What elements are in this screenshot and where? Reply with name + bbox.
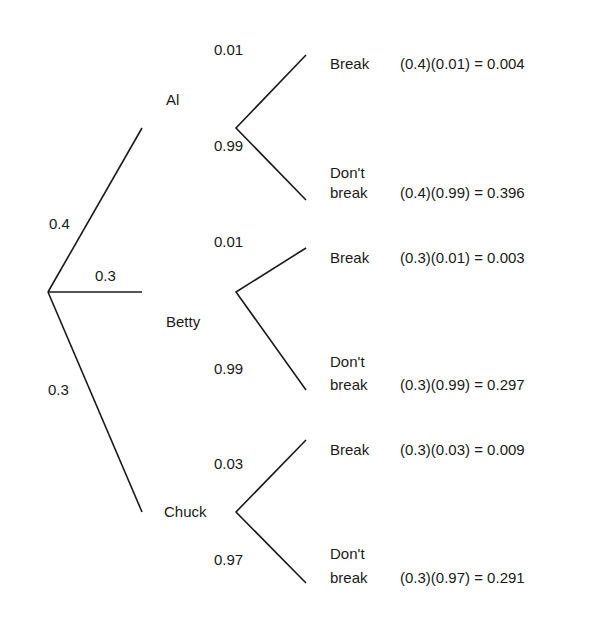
node-chuck: Chuck bbox=[164, 503, 207, 520]
outcome-al-dont-1: Don't bbox=[330, 164, 365, 181]
prob-al: 0.4 bbox=[49, 215, 70, 232]
calc-al-dont: (0.4)(0.99) = 0.396 bbox=[400, 184, 525, 201]
prob-al-break: 0.01 bbox=[214, 41, 243, 58]
prob-chuck: 0.3 bbox=[48, 381, 69, 398]
prob-al-dont: 0.99 bbox=[214, 137, 243, 154]
tree-lines bbox=[0, 0, 603, 633]
prob-betty-break: 0.01 bbox=[214, 233, 243, 250]
prob-chuck-break: 0.03 bbox=[214, 455, 243, 472]
calc-chuck-break: (0.3)(0.03) = 0.009 bbox=[400, 441, 525, 458]
node-al: Al bbox=[166, 91, 179, 108]
calc-al-break: (0.4)(0.01) = 0.004 bbox=[400, 55, 525, 72]
outcome-betty-break: Break bbox=[330, 249, 369, 266]
prob-betty: 0.3 bbox=[95, 267, 116, 284]
branch-chuck-sub bbox=[236, 440, 306, 583]
prob-betty-dont: 0.99 bbox=[214, 360, 243, 377]
calc-chuck-dont: (0.3)(0.97) = 0.291 bbox=[400, 569, 525, 586]
outcome-chuck-break: Break bbox=[330, 441, 369, 458]
outcome-betty-dont-2: break bbox=[330, 376, 368, 393]
prob-chuck-dont: 0.97 bbox=[214, 551, 243, 568]
outcome-chuck-dont-1: Don't bbox=[330, 545, 365, 562]
branch-chuck bbox=[48, 292, 142, 512]
calc-betty-break: (0.3)(0.01) = 0.003 bbox=[400, 249, 525, 266]
outcome-al-break: Break bbox=[330, 55, 369, 72]
node-betty: Betty bbox=[166, 313, 200, 330]
branch-betty-sub bbox=[236, 248, 306, 390]
branch-al-sub bbox=[236, 55, 306, 200]
calc-betty-dont: (0.3)(0.99) = 0.297 bbox=[400, 376, 525, 393]
outcome-betty-dont-1: Don't bbox=[330, 353, 365, 370]
outcome-chuck-dont-2: break bbox=[330, 569, 368, 586]
outcome-al-dont-2: break bbox=[330, 184, 368, 201]
